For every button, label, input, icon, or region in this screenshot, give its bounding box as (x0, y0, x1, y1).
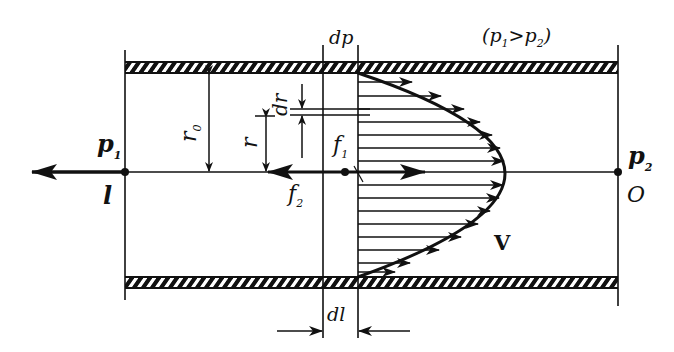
svg-text:f1: f1 (331, 132, 348, 161)
label-r0: r0 (176, 124, 204, 142)
label-dr: dr (268, 92, 292, 116)
pipe-top-wall (125, 62, 618, 73)
label-dp: dp (329, 26, 353, 48)
svg-text:r0: r0 (176, 124, 204, 142)
label-dl: dl (327, 303, 345, 325)
svg-text:p2: p2 (628, 141, 653, 174)
label-p1: p1 (97, 129, 121, 162)
pipe-bottom-wall (125, 277, 618, 288)
velocity-profile (358, 73, 505, 277)
point-p1 (121, 168, 129, 176)
label-p2: p2 (628, 141, 653, 174)
label-O: O (627, 182, 645, 207)
label-V: V (493, 230, 511, 255)
svg-text:p1: p1 (97, 129, 121, 162)
svg-text:f2: f2 (286, 181, 303, 210)
svg-text:(p1>p2): (p1>p2) (482, 24, 551, 50)
label-l: l (103, 181, 112, 210)
label-r: r (237, 136, 262, 148)
label-f2: f2 (286, 181, 303, 210)
label-condition: (p1>p2) (482, 24, 551, 50)
pipe-flow-diagram: dp (p1>p2) p1 l p2 O r0 r dr f1 f2 dl V (0, 0, 674, 352)
label-f1: f1 (331, 132, 348, 161)
point-p2 (614, 168, 622, 176)
